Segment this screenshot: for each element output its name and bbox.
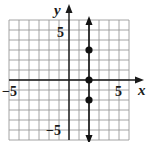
x-tick-label-5: 5 [115,84,122,99]
plot-series [85,16,92,142]
y-tick-label-5: 5 [57,25,64,40]
coordinate-plane: x y −5 5 5 −5 [0,0,149,142]
y-axis-arrow-icon [66,4,73,13]
y-axis-label: y [52,2,61,18]
data-point [85,76,92,83]
data-point [85,46,92,53]
line-arrow-down-icon [86,135,93,142]
y-tick-label-neg5: −5 [46,123,61,138]
x-tick-label-neg5: −5 [2,84,17,99]
line-arrow-up-icon [86,16,93,25]
x-axis-label: x [137,82,146,98]
data-point [85,96,92,103]
